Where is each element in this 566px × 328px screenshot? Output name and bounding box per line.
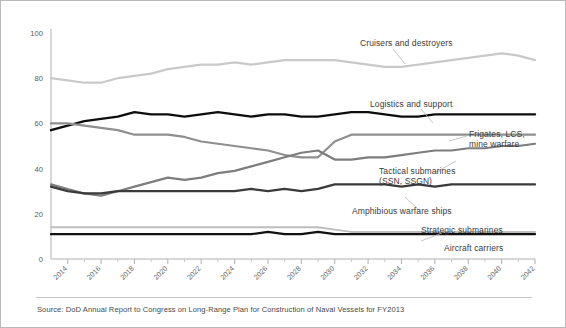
source-divider — [36, 297, 532, 298]
svg-text:2034: 2034 — [385, 264, 403, 282]
series-label-strategic: Strategic submarines — [421, 225, 503, 235]
series-line — [51, 123, 535, 157]
series-label-logistics: Logistics and support — [370, 99, 452, 109]
chart-plot-area: 020406080100 201420162018202020222024202… — [1, 1, 566, 293]
svg-text:2026: 2026 — [252, 264, 270, 282]
series-label-tactical-line2: (SSN, SSGN) — [379, 176, 432, 186]
svg-text:80: 80 — [35, 74, 43, 83]
series-label-carriers: Aircraft carriers — [444, 243, 503, 253]
svg-text:100: 100 — [30, 29, 43, 38]
svg-text:2018: 2018 — [118, 264, 136, 282]
data-series-group — [51, 53, 535, 234]
leader-line — [393, 49, 405, 64]
y-axis: 020406080100 — [30, 29, 51, 264]
naval-fleet-chart-figure: 020406080100 201420162018202020222024202… — [0, 0, 566, 328]
svg-text:2028: 2028 — [285, 264, 303, 282]
series-label-cruisers: Cruisers and destroyers — [360, 38, 453, 48]
svg-text:2024: 2024 — [218, 264, 236, 282]
svg-text:2036: 2036 — [419, 264, 437, 282]
svg-text:2042: 2042 — [519, 264, 537, 282]
svg-text:60: 60 — [35, 119, 43, 128]
series-line — [51, 112, 535, 130]
series-line — [51, 53, 535, 82]
x-axis: 2014201620182020202220242026202820302032… — [51, 259, 536, 282]
svg-text:2014: 2014 — [51, 264, 69, 282]
series-label-frigates-line2: mine warfare — [469, 139, 519, 149]
svg-text:40: 40 — [35, 165, 43, 174]
svg-text:2038: 2038 — [452, 264, 470, 282]
series-label-amphibious: Amphibious warfare ships — [352, 206, 452, 216]
svg-text:2022: 2022 — [185, 264, 203, 282]
series-line — [51, 144, 535, 196]
source-note: Source: DoD Annual Report to Congress on… — [37, 305, 404, 314]
svg-text:2016: 2016 — [85, 264, 103, 282]
svg-text:20: 20 — [35, 210, 43, 219]
series-label-tactical-line1: Tactical submarines — [379, 166, 456, 176]
series-label-frigates-line1: Frigates, LCS, — [469, 129, 525, 139]
svg-text:2030: 2030 — [318, 264, 336, 282]
svg-text:2032: 2032 — [352, 264, 370, 282]
leader-line — [449, 136, 467, 141]
svg-text:2020: 2020 — [152, 264, 170, 282]
svg-text:2040: 2040 — [485, 264, 503, 282]
svg-text:0: 0 — [39, 255, 43, 264]
